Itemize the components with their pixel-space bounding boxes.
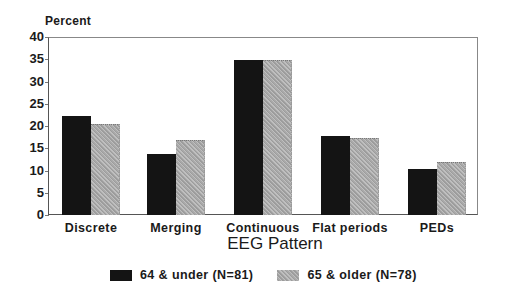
bar-continuous-series-0 (234, 60, 263, 215)
bar-peds-series-0 (408, 169, 437, 215)
y-tick-label: 30 (0, 75, 44, 89)
y-tick-mark (45, 215, 49, 216)
bar-merging-series-0 (147, 154, 176, 215)
legend-swatch-gray (277, 270, 299, 281)
y-tick-label: 40 (0, 30, 44, 44)
x-tick-label: Continuous (218, 221, 308, 235)
y-tick-label: 15 (0, 141, 44, 155)
bar-flat-periods-series-1 (350, 138, 379, 215)
bar-discrete-series-1 (91, 124, 120, 215)
y-tick-label: 20 (0, 119, 44, 133)
legend-swatch-black (110, 270, 132, 281)
y-tick-label: 10 (0, 164, 44, 178)
bar-discrete-series-0 (62, 116, 91, 215)
bar-flat-periods-series-0 (321, 136, 350, 215)
legend-label: 65 & older (N=78) (307, 268, 416, 282)
y-tick-label: 25 (0, 97, 44, 111)
bar-merging-series-1 (176, 140, 205, 215)
y-tick-label: 35 (0, 52, 44, 66)
bar-peds-series-1 (437, 162, 466, 215)
y-axis-label: Percent (45, 14, 91, 28)
x-tick-label: Discrete (46, 221, 136, 235)
y-tick-label: 5 (0, 186, 44, 200)
x-tick-label: PEDs (392, 221, 482, 235)
legend-item-under-64: 64 & under (N=81) (110, 268, 253, 282)
x-tick-label: Flat periods (305, 221, 395, 235)
bar-continuous-series-1 (263, 60, 292, 215)
legend-label: 64 & under (N=81) (140, 268, 253, 282)
legend: 64 & under (N=81) 65 & older (N=78) (110, 268, 441, 282)
x-tick-label: Merging (131, 221, 221, 235)
plot-area (48, 37, 478, 215)
x-axis-label: EEG Pattern (0, 234, 505, 254)
legend-item-65-older: 65 & older (N=78) (277, 268, 416, 282)
y-tick-label: 0 (0, 208, 44, 222)
